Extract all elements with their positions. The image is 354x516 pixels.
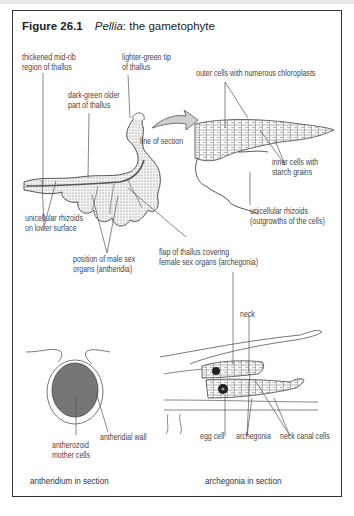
label-archegonia: archegonia xyxy=(236,432,271,442)
caption-antheridium: antheridium in section xyxy=(30,476,109,486)
archegonia-drawing xyxy=(160,330,322,434)
label-line-of-section: line of section xyxy=(140,137,183,147)
label-male-line2: organs (antheridia) xyxy=(73,265,135,275)
label-mother-line2: mother cells xyxy=(52,451,90,461)
label-male-sex-organs: position of male sex organs (antheridia) xyxy=(73,255,135,275)
label-flap-of-thallus: flap of thallus covering female sex orga… xyxy=(159,248,258,268)
label-antheridial-wall: antheridial wall xyxy=(100,433,147,443)
label-unicellular-rhizoids-lower: unicellular rhizoids on lower surface xyxy=(25,214,83,234)
label-tip-line2: of thallus xyxy=(122,63,171,73)
label-neck: neck xyxy=(240,310,255,320)
label-rhizoids-line2: on lower surface xyxy=(25,224,83,234)
thallus-drawing xyxy=(24,113,160,226)
label-inner-line1: inner cells with xyxy=(272,158,318,168)
label-unicellular-rhizoids-outgrowths: unicellular rhizoids (outgrowths of the … xyxy=(250,207,325,227)
caption-archegonia: archegonia in section xyxy=(205,476,281,486)
label-antherozoid-mother-cells: antherozoid mother cells xyxy=(52,441,90,461)
label-flap-line1: flap of thallus covering xyxy=(159,248,258,258)
label-inner-line2: starch grains xyxy=(272,168,318,178)
label-older-line2: part of thallus xyxy=(68,101,120,111)
label-tip-line1: lighter-green tip xyxy=(122,53,171,63)
label-mother-line1: antherozoid xyxy=(52,441,90,451)
label-midrib: thickened mid-rib region of thallus xyxy=(22,53,76,73)
label-midrib-line1: thickened mid-rib xyxy=(22,53,76,63)
arrow-icon xyxy=(152,110,198,130)
antheridium-drawing xyxy=(26,349,110,424)
label-egg-cell: egg cell xyxy=(200,432,224,442)
label-older-line1: dark-green older xyxy=(68,91,120,101)
label-rhiz-line1: unicellular rhizoids xyxy=(250,207,325,217)
label-lighter-green-tip: lighter-green tip of thallus xyxy=(122,53,171,73)
label-male-line1: position of male sex xyxy=(73,255,135,265)
label-flap-line2: female sex organs (archegonia) xyxy=(159,258,258,268)
label-rhizoids-line1: unicellular rhizoids xyxy=(25,214,83,224)
label-midrib-line2: region of thallus xyxy=(22,63,76,73)
label-outer-cells: outer cells with numerous chloroplasts xyxy=(196,69,315,79)
label-inner-cells: inner cells with starch grains xyxy=(272,158,318,178)
label-neck-canal-cells: neck canal cells xyxy=(280,432,330,442)
label-rhiz-line2: (outgrowths of the cells) xyxy=(250,217,325,227)
label-dark-green-older: dark-green older part of thallus xyxy=(68,91,120,111)
